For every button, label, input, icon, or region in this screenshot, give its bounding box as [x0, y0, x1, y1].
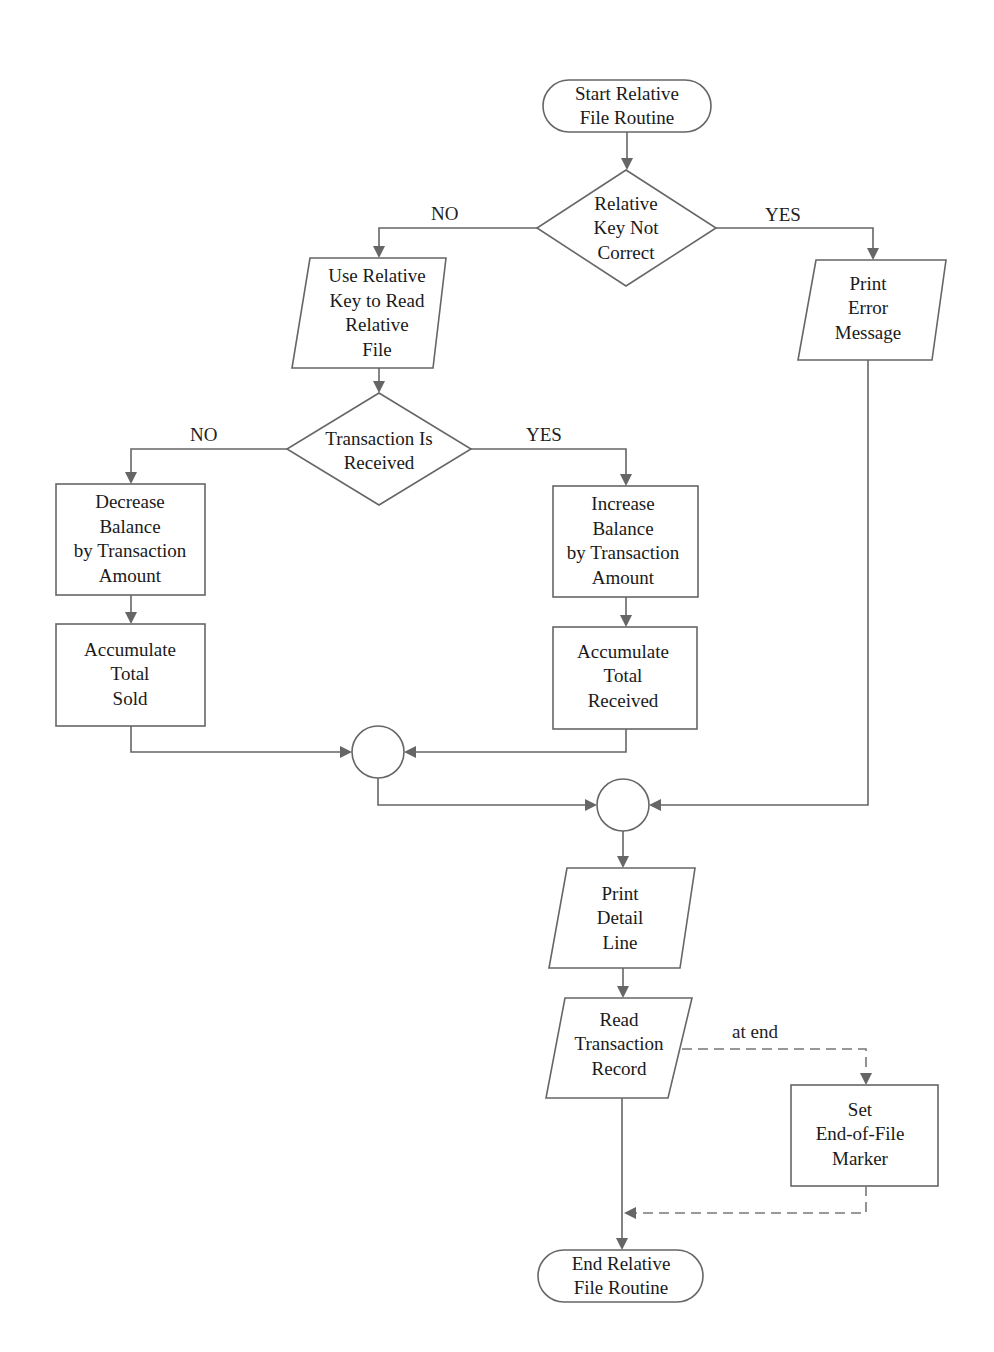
node-increase: IncreaseBalanceby TransactionAmount	[553, 486, 698, 597]
label-at-end: at end	[732, 1021, 778, 1042]
arrowhead	[373, 246, 385, 258]
arrowhead	[867, 248, 879, 260]
node-text-line: Error	[848, 297, 889, 318]
arrowhead	[617, 986, 629, 998]
node-print-detail-text: PrintDetailLine	[597, 883, 643, 953]
arrowhead	[404, 746, 416, 758]
node-end: End RelativeFile Routine	[538, 1250, 703, 1302]
node-text-line: Transaction Is	[325, 428, 433, 449]
node-text-line: Print	[850, 273, 888, 294]
connector-1	[352, 726, 404, 778]
arrowhead	[649, 799, 661, 811]
node-text-line: Set	[848, 1099, 873, 1120]
node-text-line: Received	[344, 452, 415, 473]
label-key-no: NO	[431, 203, 458, 224]
edge-keycheck-no	[379, 228, 537, 248]
node-text-line: by Transaction	[567, 542, 680, 563]
node-key-check: RelativeKey NotCorrect	[537, 170, 716, 286]
node-text-line: Record	[592, 1058, 647, 1079]
edge-seteof-end	[634, 1186, 866, 1213]
node-text-line: Accumulate	[577, 641, 669, 662]
node-text-line: Correct	[598, 242, 656, 263]
node-text-line: Relative	[594, 193, 657, 214]
node-text-line: Print	[602, 883, 640, 904]
node-text-line: Balance	[99, 516, 160, 537]
edge-readtrans-seteof	[682, 1049, 866, 1075]
edge-accrec-conn1	[414, 729, 626, 752]
decision-trans-check-shape	[287, 393, 471, 505]
node-print-detail: PrintDetailLine	[549, 868, 695, 968]
arrowhead	[616, 1238, 628, 1250]
node-text-line: Read	[599, 1009, 639, 1030]
node-text-line: Decrease	[95, 491, 165, 512]
node-start: Start RelativeFile Routine	[543, 80, 711, 132]
node-read-trans: ReadTransactionRecord	[546, 998, 692, 1098]
arrowhead	[621, 158, 633, 170]
arrowhead	[340, 746, 352, 758]
node-text-line: Received	[588, 690, 659, 711]
arrowhead	[125, 612, 137, 624]
arrowhead	[373, 381, 385, 393]
arrowhead	[125, 472, 137, 484]
arrowhead	[620, 474, 632, 486]
node-text-line: Total	[111, 663, 150, 684]
node-text-line: Sold	[113, 688, 148, 709]
edge-trans-no	[131, 449, 287, 474]
arrowhead	[585, 799, 597, 811]
edge-conn1-conn2	[378, 778, 587, 805]
node-text-line: Key to Read	[330, 290, 425, 311]
edge-keycheck-yes	[716, 228, 873, 250]
node-text-line: Increase	[591, 493, 654, 514]
node-text-line: File Routine	[580, 107, 674, 128]
node-text-line: End Relative	[572, 1253, 671, 1274]
node-text-line: Total	[604, 665, 643, 686]
node-text-line: Marker	[832, 1148, 889, 1169]
node-text-line: Line	[603, 932, 638, 953]
node-acc-received: AccumulateTotalReceived	[553, 627, 697, 729]
node-key-check-text: RelativeKey NotCorrect	[594, 193, 660, 263]
node-text-line: File Routine	[574, 1277, 668, 1298]
node-print-error: PrintErrorMessage	[798, 260, 946, 360]
connector-2	[597, 779, 649, 831]
node-set-eof: SetEnd-of-FileMarker	[791, 1085, 938, 1186]
node-text-line: by Transaction	[74, 540, 187, 561]
node-text-line: Use Relative	[328, 265, 426, 286]
node-decrease: DecreaseBalanceby TransactionAmount	[56, 484, 205, 595]
node-text-line: Detail	[597, 907, 643, 928]
edge-accsold-conn1	[131, 726, 342, 752]
node-text-line: Accumulate	[84, 639, 176, 660]
label-trans-yes: YES	[526, 424, 562, 445]
node-text-line: Start Relative	[575, 83, 679, 104]
label-key-yes: YES	[765, 204, 801, 225]
node-read-relative: Use RelativeKey to ReadRelativeFile	[292, 258, 446, 368]
node-text-line: Amount	[592, 567, 655, 588]
node-text-line: Relative	[345, 314, 408, 335]
node-text-line: Key Not	[594, 217, 660, 238]
arrowhead	[617, 856, 629, 868]
node-text-line: Amount	[99, 565, 162, 586]
node-text-line: Transaction	[574, 1033, 664, 1054]
node-text-line: File	[362, 339, 392, 360]
edge-trans-yes	[471, 449, 626, 476]
node-text-line: Balance	[592, 518, 653, 539]
arrowhead	[860, 1073, 872, 1085]
node-trans-check: Transaction IsReceived	[287, 393, 471, 505]
label-trans-no: NO	[190, 424, 217, 445]
arrowhead	[620, 615, 632, 627]
node-text-line: End-of-File	[816, 1123, 905, 1144]
arrowhead	[624, 1207, 636, 1219]
flowchart: Start RelativeFile Routine RelativeKey N…	[0, 0, 994, 1352]
node-acc-sold: AccumulateTotalSold	[56, 624, 205, 726]
node-text-line: Message	[835, 322, 901, 343]
